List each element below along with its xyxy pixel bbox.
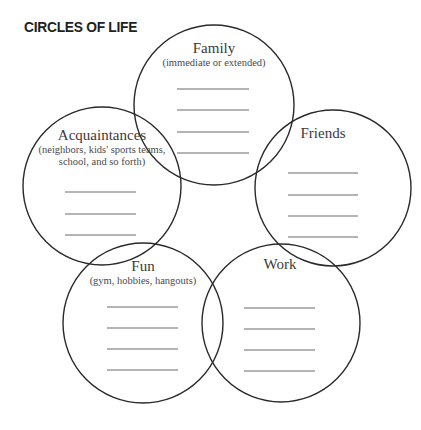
acquaintances-label: Acquaintances (neighbors, kids' sports t…: [32, 127, 172, 168]
family-blank-lines: [177, 89, 249, 153]
friends-name: Friends: [283, 125, 363, 142]
work-name: Work: [250, 256, 310, 273]
fun-name: Fun: [88, 258, 198, 275]
fun-subtitle: (gym, hobbies, hangouts): [88, 275, 198, 287]
work-blank-lines: [244, 308, 315, 371]
family-subtitle: (immediate or extended): [154, 57, 274, 69]
friends-blank-lines: [288, 173, 358, 237]
fun-label: Fun (gym, hobbies, hangouts): [88, 258, 198, 287]
fun-blank-lines: [107, 307, 178, 370]
acquaintances-subtitle-line2: school, and so forth): [32, 156, 172, 168]
acquaintances-blank-lines: [65, 192, 136, 235]
friends-label: Friends: [283, 125, 363, 142]
family-label: Family (immediate or extended): [154, 40, 274, 69]
family-name: Family: [154, 40, 274, 57]
acquaintances-name: Acquaintances: [32, 127, 172, 144]
acquaintances-subtitle-line1: (neighbors, kids' sports teams,: [32, 144, 172, 156]
work-label: Work: [250, 256, 310, 273]
